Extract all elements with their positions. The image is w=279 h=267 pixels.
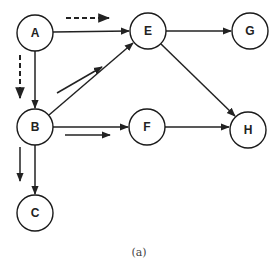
node-f: F <box>129 109 165 145</box>
node-b-label: B <box>31 120 40 134</box>
node-g: G <box>232 13 268 49</box>
node-h: H <box>230 112 266 148</box>
node-e: E <box>130 13 166 49</box>
node-f-label: F <box>143 120 150 134</box>
node-h-label: H <box>244 123 253 137</box>
node-c: C <box>17 195 53 231</box>
edge-e-h <box>161 44 235 116</box>
node-c-label: C <box>31 206 40 220</box>
node-b: B <box>17 109 53 145</box>
node-a-label: A <box>31 26 40 40</box>
node-g-label: G <box>245 24 254 38</box>
figure-caption: (a) <box>131 246 146 259</box>
node-e-label: E <box>144 24 152 38</box>
edge-a-e <box>53 31 129 32</box>
node-a: A <box>17 15 53 51</box>
graph-diagram: A E G B F H C (a) <box>0 0 279 267</box>
edge-b-e <box>49 43 133 115</box>
